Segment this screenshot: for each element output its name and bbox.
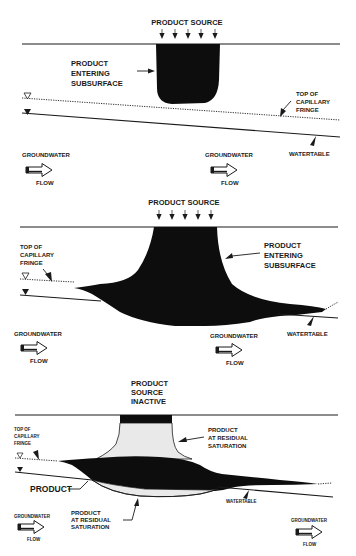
- panel-stage-2: PRODUCT SOURCE PRODUCT ENTERING SUBSURFA…: [14, 198, 338, 366]
- svg-text:SOURCE: SOURCE: [131, 388, 163, 397]
- residual-lower-label: PRODUCT AT RESIDUAL SATURATION: [71, 498, 139, 530]
- capillary-fringe-line-right: [326, 302, 338, 309]
- capillary-fringe-line: [20, 279, 74, 282]
- flow-arrow-icon: [26, 164, 52, 177]
- residual-saturation-zone: [96, 423, 192, 459]
- flow-arrow-icon: [216, 344, 242, 357]
- svg-text:ENTERING: ENTERING: [71, 69, 110, 78]
- source-arrows: [159, 29, 217, 39]
- watertable-label: WATERTABLE: [226, 490, 257, 504]
- watertable-line: [20, 295, 101, 301]
- svg-text:TOP OF: TOP OF: [14, 427, 31, 432]
- svg-text:CAPILLARY: CAPILLARY: [20, 252, 54, 258]
- svg-text:GROUNDWATER: GROUNDWATER: [210, 333, 259, 339]
- product-entering-label: PRODUCT ENTERING SUBSURFACE: [225, 241, 316, 270]
- product-plume: [156, 44, 220, 104]
- capillary-fringe-line: [15, 458, 58, 461]
- flow-arrow-icon: [18, 521, 44, 534]
- svg-text:FLOW: FLOW: [36, 180, 54, 186]
- svg-text:PRODUCT: PRODUCT: [208, 427, 238, 433]
- svg-text:TOP OF: TOP OF: [20, 244, 42, 250]
- down-arrow-icon: [156, 210, 161, 220]
- product-source-label: PRODUCT SOURCE: [151, 18, 222, 27]
- product-plume: [58, 456, 318, 491]
- svg-text:CAPILLARY: CAPILLARY: [296, 99, 330, 105]
- svg-text:GROUNDWATER: GROUNDWATER: [291, 518, 328, 523]
- svg-text:SUBSURFACE: SUBSURFACE: [71, 79, 123, 88]
- svg-text:AT RESIDUAL: AT RESIDUAL: [208, 435, 248, 441]
- groundwater-flow-arrow-right: GROUNDWATER FLOW: [205, 152, 254, 186]
- watertable-symbol-icon: [17, 467, 23, 472]
- svg-text:GROUNDWATER: GROUNDWATER: [14, 514, 51, 519]
- svg-text:PRODUCT: PRODUCT: [131, 379, 169, 388]
- down-arrow-icon: [182, 210, 187, 220]
- watertable-label: WATERTABLE: [287, 316, 328, 337]
- watertable-line-right: [278, 314, 338, 318]
- svg-text:AT RESIDUAL: AT RESIDUAL: [71, 517, 111, 523]
- panel-stage-1: PRODUCT SOURCE PRODUCT ENTERING SUBSURFA…: [22, 18, 340, 186]
- flow-arrow-icon: [211, 164, 237, 177]
- svg-text:CAPILLARY: CAPILLARY: [14, 434, 40, 439]
- svg-text:PRODUCT: PRODUCT: [264, 241, 302, 250]
- svg-text:GROUNDWATER: GROUNDWATER: [14, 331, 63, 337]
- svg-text:WATERTABLE: WATERTABLE: [226, 499, 257, 504]
- svg-text:TOP OF: TOP OF: [296, 91, 318, 97]
- down-arrow-icon: [212, 29, 217, 39]
- source-inactive-label: PRODUCT SOURCE INACTIVE: [131, 379, 169, 406]
- svg-text:WATERTABLE: WATERTABLE: [289, 151, 330, 157]
- capillary-fringe-label: TOP OF CAPILLARY FRINGE: [280, 91, 330, 117]
- svg-text:FLOW: FLOW: [221, 180, 239, 186]
- down-arrow-icon: [169, 210, 174, 220]
- down-arrow-icon: [159, 29, 164, 39]
- groundwater-flow-arrow-left: GROUNDWATER FLOW: [14, 514, 51, 542]
- svg-text:FLOW: FLOW: [30, 358, 48, 364]
- svg-text:PRODUCT: PRODUCT: [71, 59, 109, 68]
- capillary-fringe-symbol-icon: [17, 453, 23, 458]
- flow-arrow-icon: [296, 526, 322, 539]
- svg-text:INACTIVE: INACTIVE: [131, 397, 166, 406]
- residual-upper-label: PRODUCT AT RESIDUAL SATURATION: [178, 427, 248, 449]
- lnapl-migration-diagram: PRODUCT SOURCE PRODUCT ENTERING SUBSURFA…: [0, 0, 356, 556]
- groundwater-flow-arrow-right: GROUNDWATER FLOW: [210, 333, 259, 366]
- groundwater-flow-arrow-left: GROUNDWATER FLOW: [22, 152, 71, 186]
- watertable-label: WATERTABLE: [289, 136, 330, 157]
- svg-text:FLOW: FLOW: [27, 537, 41, 542]
- svg-text:GROUNDWATER: GROUNDWATER: [205, 152, 254, 158]
- capillary-fringe-symbol-icon: [22, 273, 29, 279]
- product-source-label: PRODUCT SOURCE: [148, 198, 219, 207]
- svg-text:GROUNDWATER: GROUNDWATER: [22, 152, 71, 158]
- watertable-line-right: [218, 487, 333, 497]
- down-arrow-icon: [195, 210, 200, 220]
- panel-stage-3: PRODUCT SOURCE INACTIVE TOP OF CAPILLARY…: [14, 379, 338, 547]
- svg-text:SATURATION: SATURATION: [71, 524, 109, 530]
- down-arrow-icon: [172, 29, 177, 39]
- groundwater-flow-arrow-left: GROUNDWATER FLOW: [14, 331, 63, 364]
- watertable-line: [22, 113, 340, 137]
- groundwater-flow-arrow-right: GROUNDWATER FLOW: [291, 518, 328, 547]
- svg-text:SATURATION: SATURATION: [208, 443, 246, 449]
- svg-text:FRINGE: FRINGE: [20, 260, 43, 266]
- source-arrows: [156, 210, 213, 220]
- down-arrow-icon: [208, 210, 213, 220]
- svg-text:SUBSURFACE: SUBSURFACE: [264, 261, 316, 270]
- svg-text:FLOW: FLOW: [226, 360, 244, 366]
- flow-arrow-icon: [21, 342, 47, 355]
- capillary-fringe-line-right: [318, 483, 332, 484]
- svg-text:PRODUCT: PRODUCT: [30, 484, 73, 494]
- product-entering-label: PRODUCT ENTERING SUBSURFACE: [71, 59, 155, 88]
- svg-text:FLOW: FLOW: [303, 542, 317, 547]
- svg-text:WATERTABLE: WATERTABLE: [287, 331, 328, 337]
- product-label: PRODUCT: [30, 481, 88, 494]
- inactive-source-block: [120, 415, 172, 423]
- watertable-symbol-icon: [22, 289, 29, 295]
- svg-text:FRINGE: FRINGE: [296, 107, 319, 113]
- svg-text:ENTERING: ENTERING: [264, 251, 303, 260]
- down-arrow-icon: [198, 29, 203, 39]
- svg-text:FRINGE: FRINGE: [14, 441, 31, 446]
- watertable-line: [15, 472, 92, 480]
- down-arrow-icon: [185, 29, 190, 39]
- svg-text:PRODUCT: PRODUCT: [71, 510, 101, 516]
